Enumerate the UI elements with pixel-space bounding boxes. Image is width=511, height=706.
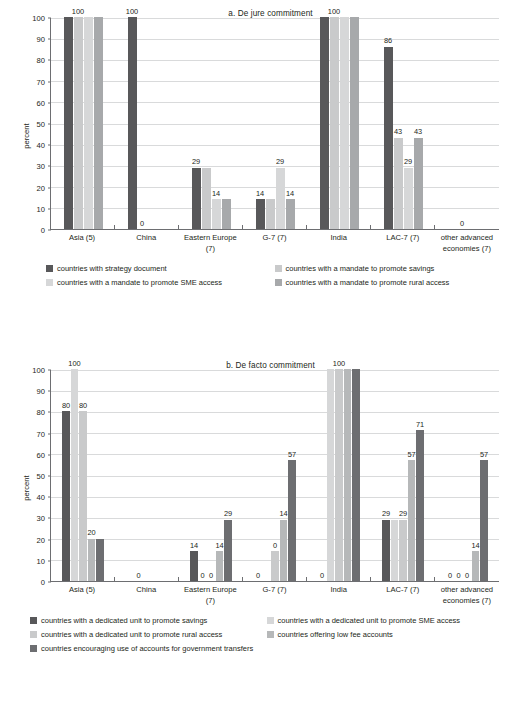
bar-fill xyxy=(320,17,329,229)
x-axis-label: G-7 (7) xyxy=(242,233,306,254)
bar-fill xyxy=(340,17,349,229)
bar-value-label: 0 xyxy=(448,572,452,579)
x-axis-label: LAC-7 (7) xyxy=(371,233,435,254)
bar: 0 xyxy=(455,369,463,581)
bar-fill xyxy=(384,47,393,229)
bar xyxy=(94,17,103,229)
bar-fill xyxy=(79,411,87,581)
bar-value-label: 80 xyxy=(79,402,87,409)
bar xyxy=(352,369,360,581)
bar: 29 xyxy=(276,17,285,229)
chart-a-plot: 10010002914142914100864329430 xyxy=(50,18,499,230)
bar: 29 xyxy=(192,17,201,229)
bar-fill xyxy=(286,199,295,229)
bar xyxy=(350,17,359,229)
bar: 43 xyxy=(414,17,423,229)
bar-value-label: 100 xyxy=(72,8,84,15)
bar: 14 xyxy=(212,17,221,229)
legend-item: countries with a mandate to promote SME … xyxy=(46,278,269,287)
bar xyxy=(448,17,457,229)
legend-label: countries with a mandate to promote rura… xyxy=(286,278,450,287)
bar-value-label: 0 xyxy=(200,572,204,579)
bar-value-label: 29 xyxy=(276,158,284,165)
bar-fill xyxy=(71,369,79,581)
figure-container: a. De jure commitment percent 0102030405… xyxy=(0,0,511,706)
legend-item: countries with a dedicated unit to promo… xyxy=(30,630,261,639)
bar xyxy=(84,17,93,229)
bar-group: 86432943 xyxy=(371,18,435,229)
bar: 0 xyxy=(458,17,467,229)
chart-a-x-labels: Asia (5)ChinaEastern Europe (7)G-7 (7)In… xyxy=(50,233,499,254)
bar-fill xyxy=(382,520,390,581)
bar-fill xyxy=(414,138,423,229)
y-tick-label: 100 xyxy=(32,14,45,23)
legend-item: countries with a dedicated unit to promo… xyxy=(267,616,498,625)
bar xyxy=(391,369,399,581)
bar xyxy=(263,369,271,581)
bar: 80 xyxy=(62,369,70,581)
legend-swatch-icon xyxy=(30,617,37,624)
bar-value-label: 0 xyxy=(273,542,277,549)
bar: 14 xyxy=(286,17,295,229)
bar: 20 xyxy=(88,369,96,581)
bar-group: 1000 xyxy=(115,18,179,229)
bar: 80 xyxy=(79,369,87,581)
bar-group: 2914 xyxy=(179,18,243,229)
bar: 14 xyxy=(256,17,265,229)
chart-b-y-ticks: 0102030405060708090100 xyxy=(26,370,48,582)
x-axis-label: G-7 (7) xyxy=(242,585,306,606)
bar: 0 xyxy=(318,369,326,581)
x-axis-label: India xyxy=(307,585,371,606)
bar-fill xyxy=(202,168,211,229)
chart-b-plot-area: percent 0102030405060708090100 801008020… xyxy=(18,370,499,606)
chart-b-plot: 8010080200140014290014570100292957710001… xyxy=(50,370,499,582)
y-tick-label: 10 xyxy=(37,556,45,565)
legend-swatch-icon xyxy=(267,617,274,624)
bar-fill xyxy=(330,17,339,229)
x-axis-label: Asia (5) xyxy=(50,233,114,254)
y-tick-label: 30 xyxy=(37,514,45,523)
bar: 14 xyxy=(472,369,480,581)
bar-fill xyxy=(96,539,104,581)
legend-label: countries offering low fee accounts xyxy=(278,630,393,639)
bar: 29 xyxy=(399,369,407,581)
bar: 100 xyxy=(74,17,83,229)
bar-value-label: 14 xyxy=(471,542,479,549)
bar xyxy=(468,17,477,229)
bar-fill xyxy=(480,460,488,581)
legend-item: countries encouraging use of accounts fo… xyxy=(30,644,261,653)
bar-group: 801008020 xyxy=(51,370,115,581)
bar-fill xyxy=(276,168,285,229)
bar-value-label: 100 xyxy=(328,8,340,15)
bar xyxy=(266,17,275,229)
bar xyxy=(222,17,231,229)
y-tick-label: 100 xyxy=(32,366,45,375)
legend-swatch-icon xyxy=(275,279,282,286)
bar-fill xyxy=(190,551,198,581)
legend-swatch-icon xyxy=(46,279,53,286)
y-tick-label: 50 xyxy=(37,120,45,129)
chart-b-x-labels: Asia (5)ChinaEastern Europe (7)G-7 (7)In… xyxy=(50,585,499,606)
bar xyxy=(340,17,349,229)
legend-item: countries offering low fee accounts xyxy=(267,630,498,639)
bar: 14 xyxy=(190,369,198,581)
y-tick-label: 20 xyxy=(37,535,45,544)
bar: 0 xyxy=(199,369,207,581)
bar-fill xyxy=(94,17,103,229)
bar-group: 001457 xyxy=(243,370,307,581)
x-axis-label: China xyxy=(114,585,178,606)
bar-value-label: 57 xyxy=(407,451,415,458)
bar-value-label: 0 xyxy=(136,572,140,579)
bar: 57 xyxy=(288,369,296,581)
x-axis-label: China xyxy=(114,233,178,254)
x-axis-label: Asia (5) xyxy=(50,585,114,606)
bar: 0 xyxy=(207,369,215,581)
bar xyxy=(478,17,487,229)
bar-fill xyxy=(288,460,296,581)
bar-group: 100 xyxy=(307,18,371,229)
legend-item: countries with a mandate to promote rura… xyxy=(275,278,498,287)
chart-a-plot-area: percent 0102030405060708090100 100100029… xyxy=(18,18,499,254)
bar-group: 29295771 xyxy=(371,370,435,581)
bar-fill xyxy=(271,551,279,581)
bar-value-label: 100 xyxy=(333,360,345,367)
